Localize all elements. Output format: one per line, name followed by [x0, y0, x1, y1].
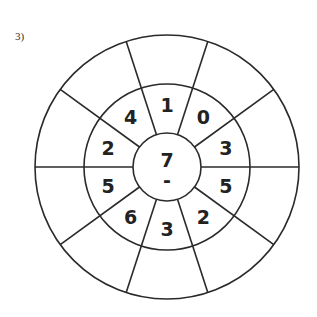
number-wheel-diagram: 1035236524 7 - — [0, 0, 317, 317]
center-top-number: 7 — [160, 149, 173, 171]
center-bottom-symbol: - — [163, 169, 171, 191]
middle-ring-number: 5 — [219, 175, 232, 197]
middle-ring-number: 3 — [219, 137, 232, 159]
middle-ring-number: 4 — [124, 106, 137, 128]
middle-ring-number: 1 — [160, 94, 173, 116]
middle-ring-number: 3 — [160, 218, 173, 240]
middle-ring-number: 5 — [101, 175, 114, 197]
middle-ring-number: 2 — [197, 206, 210, 228]
middle-ring-number: 6 — [124, 206, 137, 228]
middle-ring-number: 2 — [101, 137, 114, 159]
middle-ring-number: 0 — [197, 106, 210, 128]
